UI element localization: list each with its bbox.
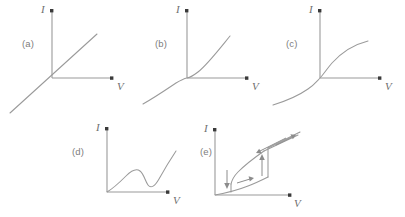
panel-a: (a) I V [0, 0, 135, 118]
panel-e: (e) [190, 118, 340, 217]
panel-b: (b) I V [135, 0, 270, 118]
panel-c-x-axis-label: V [385, 80, 393, 92]
panel-a-y-axis-label: I [40, 3, 46, 15]
panel-c-y-axis-arrowhead-icon [318, 9, 321, 12]
panel-d: (d) I V [60, 118, 200, 217]
panel-e-on-branch-upper [268, 132, 300, 148]
panel-a-x-axis-arrowhead-icon [110, 76, 113, 79]
panel-e-return-branch [231, 151, 264, 184]
panel-c-plot: I V [268, 0, 405, 118]
panel-b-plot: I V [135, 0, 270, 118]
panel-b-y-axis-arrowhead-icon [185, 9, 188, 12]
panel-d-plot: I V [60, 118, 200, 217]
panel-e-label: (e) [200, 146, 212, 157]
figure-canvas: (a) I V (b) I V (c) [0, 0, 405, 217]
panel-a-x-axis-label: V [117, 80, 125, 92]
panel-a-label: (a) [22, 38, 34, 49]
panel-e-arrow-down [224, 170, 230, 189]
panel-e-off-branch [215, 177, 268, 195]
panel-d-y-axis-arrowhead-icon [105, 127, 108, 130]
panel-e-plot: I V [190, 118, 340, 217]
panel-e-arrow-right-off-branch [237, 176, 254, 183]
panel-e-x-axis-arrowhead-icon [288, 193, 291, 196]
panel-b-x-axis-arrowhead-icon [245, 76, 248, 79]
panel-c-label: (c) [286, 38, 298, 49]
panel-a-plot: I V [0, 0, 135, 118]
panel-d-curve [107, 151, 176, 192]
panel-a-y-axis-arrowhead-icon [50, 9, 53, 12]
panel-b-x-axis-label: V [252, 80, 260, 92]
panel-b-y-axis-label: I [175, 3, 181, 15]
panel-e-arrow-downleft-on-branch [256, 138, 286, 154]
panel-e-arrow-up [259, 154, 265, 176]
panel-e-y-axis-label: I [203, 122, 209, 134]
panel-e-y-axis-arrowhead-icon [213, 128, 216, 131]
panel-c-y-axis-label: I [308, 3, 314, 15]
panel-d-x-axis-arrowhead-icon [166, 190, 169, 193]
panel-d-label: (d) [72, 146, 84, 157]
panel-e-arrow-upright-on-branch [276, 134, 296, 145]
panel-d-y-axis-label: I [95, 121, 101, 133]
panel-c-x-axis-arrowhead-icon [378, 76, 381, 79]
panel-c: (c) I V [268, 0, 405, 118]
panel-e-x-axis-label: V [294, 197, 302, 209]
panel-d-x-axis-label: V [173, 194, 181, 206]
panel-b-label: (b) [155, 38, 167, 49]
